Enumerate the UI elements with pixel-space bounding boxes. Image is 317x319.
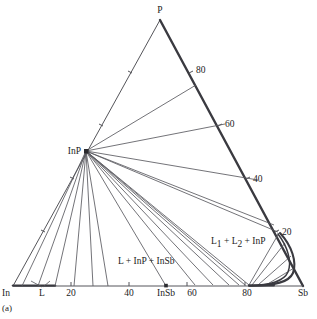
- tie-line: [74, 151, 86, 286]
- phase-label-l-inp-insb: L + InP + InSb: [118, 256, 175, 266]
- tick-label-right-80: 80: [196, 65, 206, 75]
- ternary-phase-diagram: P In Sb InP InSb L 20 40 60 80 80 60 40 …: [0, 0, 317, 319]
- inp-node-dot: [84, 149, 89, 154]
- phase-label-l1-l2-inp: L1 + L2 + InP: [211, 236, 266, 249]
- figure-caption: (a): [2, 303, 12, 313]
- vertex-label-sb: Sb: [298, 288, 308, 298]
- tie-line: [86, 124, 225, 151]
- axis-right-edge: [160, 20, 303, 286]
- svg-text:L1 + L2 + InP: L1 + L2 + InP: [211, 236, 266, 249]
- tick-label-right-40: 40: [253, 174, 263, 184]
- tick-label-bottom-80: 80: [242, 288, 252, 298]
- tie-line: [22, 151, 86, 286]
- vertex-label-in: In: [2, 288, 10, 298]
- insb-node-dot: [164, 284, 168, 288]
- tick-label-bottom-20: 20: [66, 288, 76, 298]
- node-label-inp: InP: [68, 146, 81, 156]
- phase-label-inp-suffix: + InP: [242, 236, 265, 246]
- vertex-label-p: P: [157, 5, 162, 15]
- triangle-axes: [13, 20, 303, 286]
- tie-line: [86, 151, 278, 232]
- tick-label-right-20: 20: [282, 227, 292, 237]
- node-label-l: L: [39, 288, 45, 298]
- node-label-insb: InSb: [157, 288, 175, 298]
- three-phase-edge: [252, 243, 285, 285]
- tie-line: [38, 151, 86, 286]
- tie-line: [86, 85, 196, 151]
- ternary-diagram-svg: P In Sb InP InSb L 20 40 60 80 80 60 40 …: [0, 0, 317, 319]
- tie-line: [86, 151, 274, 225]
- tie-line: [55, 151, 86, 286]
- tick-label-right-60: 60: [225, 119, 235, 129]
- tick-right-80: [189, 71, 193, 73]
- tick-label-bottom-60: 60: [187, 288, 197, 298]
- phase-label-l2-prefix: + L: [222, 236, 238, 246]
- tick-label-bottom-40: 40: [124, 288, 134, 298]
